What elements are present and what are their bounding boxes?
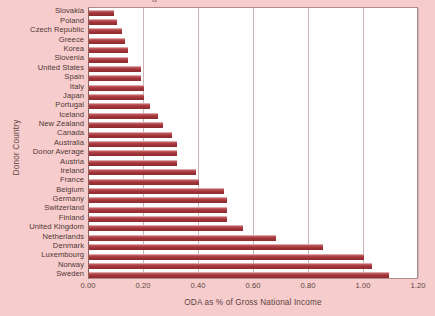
category-label: Sweden: [12, 270, 84, 278]
bar: [89, 150, 177, 156]
bar: [89, 141, 177, 147]
bar: [89, 66, 141, 72]
x-tick-label: 1.20: [395, 281, 435, 290]
bar: [89, 57, 128, 63]
category-label: Germany: [12, 195, 84, 203]
plot-area: [88, 7, 418, 279]
category-label: Switzerland: [12, 204, 84, 212]
x-tick-label: 0.40: [175, 281, 221, 290]
bar: [89, 188, 224, 194]
category-label: Czech Republic: [12, 26, 84, 34]
category-label: Finland: [12, 214, 84, 222]
bar: [89, 132, 172, 138]
bar: [89, 179, 199, 185]
category-label: France: [12, 176, 84, 184]
bar: [89, 28, 122, 34]
bar: [89, 103, 150, 109]
bar: [89, 47, 128, 53]
category-label: Denmark: [12, 242, 84, 250]
clipped-title-fragment: g: [152, 0, 157, 2]
category-label: Iceland: [12, 111, 84, 119]
category-label: Belgium: [12, 186, 84, 194]
category-label: Poland: [12, 17, 84, 25]
gridline: [308, 8, 309, 278]
bar: [89, 235, 276, 241]
bar: [89, 160, 177, 166]
bar: [89, 75, 141, 81]
category-label: New Zealand: [12, 120, 84, 128]
category-label: Netherlands: [12, 233, 84, 241]
bar: [89, 38, 125, 44]
bar: [89, 10, 114, 16]
bar: [89, 244, 323, 250]
bar: [89, 263, 372, 269]
bar: [89, 254, 364, 260]
bar: [89, 225, 243, 231]
x-tick-label: 1.00: [340, 281, 386, 290]
category-label: Canada: [12, 129, 84, 137]
category-label: Slovenia: [12, 54, 84, 62]
category-axis-labels: SlovakiaPolandCzech RepublicGreeceKoreaS…: [12, 7, 84, 279]
category-label: Luxembourg: [12, 251, 84, 259]
bar: [89, 19, 117, 25]
x-tick-label: 0.80: [285, 281, 331, 290]
bar: [89, 216, 227, 222]
bar: [89, 85, 144, 91]
category-label: Austria: [12, 158, 84, 166]
category-label: Japan: [12, 92, 84, 100]
x-tick-label: 0.00: [65, 281, 111, 290]
category-label: Ireland: [12, 167, 84, 175]
category-label: Slovakia: [12, 7, 84, 15]
bar: [89, 197, 227, 203]
category-label: Donor Average: [12, 148, 84, 156]
bar: [89, 94, 144, 100]
bar: [89, 113, 158, 119]
bar-chart: g Donor Country SlovakiaPolandCzech Repu…: [0, 0, 435, 316]
gridline: [363, 8, 364, 278]
category-label: Spain: [12, 73, 84, 81]
category-label: Greece: [12, 36, 84, 44]
category-label: Italy: [12, 83, 84, 91]
category-label: United States: [12, 64, 84, 72]
bar: [89, 122, 163, 128]
x-axis-title: ODA as % of Gross National Income: [88, 298, 418, 307]
category-label: United Kingdom: [12, 223, 84, 231]
category-label: Korea: [12, 45, 84, 53]
bar: [89, 169, 196, 175]
category-label: Norway: [12, 261, 84, 269]
gridline: [418, 8, 419, 278]
bar: [89, 272, 389, 278]
x-tick-label: 0.20: [120, 281, 166, 290]
category-label: Australia: [12, 139, 84, 147]
x-axis-tick-labels: 0.000.200.400.600.801.001.20: [0, 281, 435, 295]
x-tick-label: 0.60: [230, 281, 276, 290]
bar: [89, 207, 227, 213]
category-label: Portugal: [12, 101, 84, 109]
